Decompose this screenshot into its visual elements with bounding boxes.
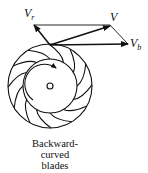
shaft-center <box>47 83 53 89</box>
impeller-diagram: Vr V Vb Backward- curved blades <box>0 0 148 173</box>
blade <box>28 50 50 59</box>
blade <box>50 113 72 122</box>
caption-line-1: Backward- <box>32 138 79 149</box>
relative-velocity-arrow <box>34 25 50 45</box>
triangle-right-line <box>110 25 128 44</box>
label-blade-velocity: Vb <box>130 36 141 52</box>
label-relative-velocity: Vr <box>24 6 35 22</box>
caption-line-2: curved <box>41 149 70 160</box>
blade-velocity-arrow <box>50 44 128 45</box>
impeller <box>8 44 92 128</box>
impeller-outer-rim <box>8 44 92 128</box>
label-absolute-velocity: V <box>110 10 119 24</box>
caption-line-3: blades <box>42 160 69 171</box>
absolute-velocity-arrow <box>50 26 110 45</box>
blade <box>77 64 86 86</box>
rotation-arrow <box>25 64 56 100</box>
blade <box>14 86 23 108</box>
impeller-inner-hub <box>23 59 77 113</box>
velocity-triangle <box>34 25 128 45</box>
